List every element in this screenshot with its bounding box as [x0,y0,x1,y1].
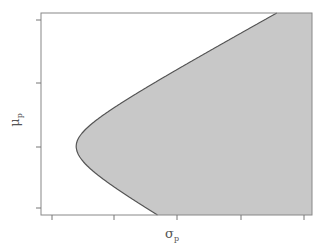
x-axis-ticks [52,215,304,220]
frontier-chart: σp μp [0,0,331,250]
plot-area [41,13,312,215]
y-axis-ticks [36,20,41,208]
x-axis-label: σp [165,226,179,243]
y-axis-label: μp [7,113,24,127]
